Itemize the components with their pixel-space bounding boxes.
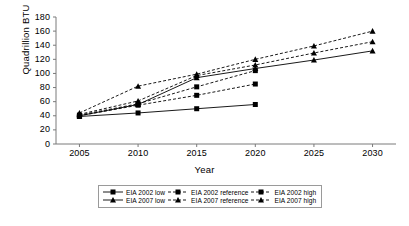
legend-key: [102, 188, 126, 196]
series-eia-2007-low: [76, 48, 375, 118]
data-point: [253, 102, 258, 107]
legend-key: [167, 196, 191, 204]
data-point: [135, 98, 141, 104]
data-point: [194, 93, 199, 98]
chart-legend: EIA 2002 lowEIA 2002 referenceEIA 2002 h…: [98, 185, 322, 208]
legend-label: EIA 2002 reference: [191, 188, 250, 196]
series-eia-2002-reference: [77, 82, 258, 119]
data-point: [253, 82, 258, 87]
legend-label: EIA 2007 low: [126, 196, 167, 204]
data-point: [194, 84, 199, 89]
legend-key: [250, 196, 274, 204]
series-line: [79, 31, 372, 113]
chart-figure: Quadrillion BTU Year 0204060801001201401…: [0, 0, 409, 226]
legend-row: EIA 2007 lowEIA 2007 referenceEIA 2007 h…: [102, 196, 318, 204]
legend-table: EIA 2002 lowEIA 2002 referenceEIA 2002 h…: [102, 188, 318, 204]
legend-key: [250, 188, 274, 196]
data-point: [370, 28, 376, 34]
series-eia-2007-high: [76, 28, 375, 115]
legend-key-marker: [111, 190, 116, 195]
series-eia-2007-reference: [76, 39, 375, 117]
legend-key: [167, 188, 191, 196]
series-line: [79, 42, 372, 115]
legend-label: EIA 2002 low: [126, 188, 167, 196]
legend-label: EIA 2007 high: [274, 196, 318, 204]
legend-row: EIA 2002 lowEIA 2002 referenceEIA 2002 h…: [102, 188, 318, 196]
data-point: [136, 110, 141, 115]
data-point: [370, 39, 376, 45]
legend-key-marker: [259, 190, 264, 195]
legend-label: EIA 2002 high: [274, 188, 318, 196]
legend-key-marker: [176, 190, 181, 195]
series-eia-2002-high: [77, 68, 258, 117]
legend-label: EIA 2007 reference: [191, 196, 250, 204]
data-point: [370, 48, 376, 54]
series-line: [79, 51, 372, 116]
legend-key: [102, 196, 126, 204]
data-point: [194, 106, 199, 111]
